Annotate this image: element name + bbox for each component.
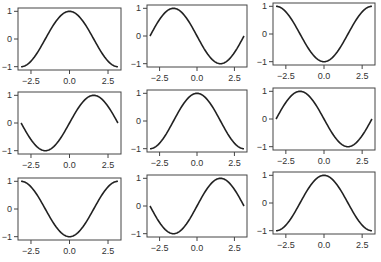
subplot-9: −101−2.50.02.5 bbox=[255, 172, 379, 262]
x-tick-label: 0.0 bbox=[318, 71, 331, 81]
x-tick-label: 0.0 bbox=[191, 158, 204, 168]
line-series bbox=[276, 175, 372, 230]
subplot-2: −101−2.50.02.5 bbox=[129, 5, 251, 95]
x-tick-label: 0.0 bbox=[318, 156, 331, 166]
subplot-7: −101−2.50.02.5 bbox=[0, 178, 125, 262]
subplot-6: −101−2.50.02.5 bbox=[255, 88, 379, 178]
x-tick-label: 2.5 bbox=[102, 160, 115, 170]
plot-frame bbox=[147, 90, 247, 152]
y-tick-label: 0 bbox=[7, 34, 12, 44]
y-tick-label: 0 bbox=[262, 198, 267, 208]
y-tick-label: 0 bbox=[136, 31, 141, 41]
x-tick-label: 2.5 bbox=[228, 243, 241, 253]
x-tick-label: 0.0 bbox=[63, 246, 76, 256]
x-tick-label: −2.5 bbox=[151, 158, 169, 168]
x-tick-label: −2.5 bbox=[22, 160, 40, 170]
y-tick-label: −1 bbox=[2, 146, 12, 156]
y-tick-label: 0 bbox=[136, 116, 141, 126]
y-tick-label: −1 bbox=[131, 59, 141, 69]
line-series bbox=[21, 181, 118, 236]
y-tick-label: 0 bbox=[7, 118, 12, 128]
line-series bbox=[276, 6, 372, 61]
y-tick-label: −1 bbox=[2, 62, 12, 72]
x-tick-label: 2.5 bbox=[102, 76, 115, 86]
subplot-3: −101−2.50.02.5 bbox=[255, 3, 379, 93]
y-tick-label: 1 bbox=[136, 3, 141, 13]
line-series bbox=[21, 95, 118, 150]
y-tick-label: −1 bbox=[131, 144, 141, 154]
x-tick-label: 2.5 bbox=[356, 240, 369, 250]
x-tick-label: 0.0 bbox=[318, 240, 331, 250]
y-tick-label: 1 bbox=[7, 6, 12, 16]
subplot-8: −101−2.50.02.5 bbox=[129, 175, 251, 262]
subplot-5: −101−2.50.02.5 bbox=[129, 90, 251, 180]
plot-frame bbox=[273, 3, 375, 65]
y-tick-label: 1 bbox=[7, 90, 12, 100]
plot-frame bbox=[18, 8, 121, 70]
y-tick-label: 1 bbox=[262, 86, 267, 96]
x-tick-label: −2.5 bbox=[277, 240, 295, 250]
x-tick-label: 2.5 bbox=[228, 158, 241, 168]
line-series bbox=[150, 178, 244, 233]
y-tick-label: 1 bbox=[136, 88, 141, 98]
subplot-4: −101−2.50.02.5 bbox=[0, 92, 125, 182]
subplot-1: −101−2.50.02.5 bbox=[0, 8, 125, 98]
x-tick-label: 2.5 bbox=[228, 73, 241, 83]
plot-frame bbox=[18, 178, 121, 240]
x-tick-label: 2.5 bbox=[102, 246, 115, 256]
y-tick-label: −1 bbox=[2, 232, 12, 242]
x-tick-label: 0.0 bbox=[191, 243, 204, 253]
x-tick-label: 2.5 bbox=[356, 71, 369, 81]
y-tick-label: 0 bbox=[7, 204, 12, 214]
x-tick-label: 0.0 bbox=[63, 160, 76, 170]
line-series bbox=[150, 93, 244, 148]
y-tick-label: 0 bbox=[136, 201, 141, 211]
y-tick-label: −1 bbox=[131, 229, 141, 239]
x-tick-label: −2.5 bbox=[22, 76, 40, 86]
x-tick-label: −2.5 bbox=[22, 246, 40, 256]
line-series bbox=[21, 11, 118, 66]
x-tick-label: −2.5 bbox=[277, 156, 295, 166]
y-tick-label: 0 bbox=[262, 114, 267, 124]
plot-frame bbox=[273, 172, 375, 234]
x-tick-label: −2.5 bbox=[151, 73, 169, 83]
y-tick-label: 1 bbox=[262, 170, 267, 180]
y-tick-label: −1 bbox=[257, 142, 267, 152]
y-tick-label: −1 bbox=[257, 226, 267, 236]
line-series bbox=[150, 8, 244, 63]
y-tick-label: 1 bbox=[136, 173, 141, 183]
line-series bbox=[276, 91, 372, 146]
x-tick-label: 0.0 bbox=[63, 76, 76, 86]
y-tick-label: −1 bbox=[257, 57, 267, 67]
y-tick-label: 0 bbox=[262, 29, 267, 39]
x-tick-label: −2.5 bbox=[151, 243, 169, 253]
x-tick-label: −2.5 bbox=[277, 71, 295, 81]
y-tick-label: 1 bbox=[262, 1, 267, 11]
y-tick-label: 1 bbox=[7, 176, 12, 186]
x-tick-label: 2.5 bbox=[356, 156, 369, 166]
x-tick-label: 0.0 bbox=[191, 73, 204, 83]
